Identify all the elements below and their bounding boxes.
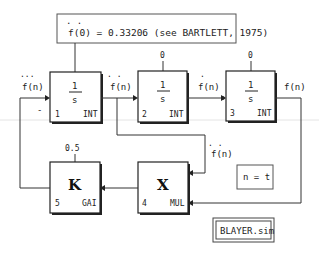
- block-3-integrator[interactable]: 1 s 3 INT: [226, 71, 277, 123]
- block3-type: INT: [257, 109, 272, 118]
- block5-number: 5: [55, 199, 60, 208]
- condition-text: n = t: [243, 172, 270, 182]
- block2-initial: 0: [160, 51, 165, 60]
- block3-number: 3: [230, 109, 235, 118]
- output2-dot: .: [200, 70, 205, 79]
- output2-label: f(n): [198, 82, 220, 92]
- output1-label: f(n): [110, 82, 132, 92]
- condition-note: n = t: [237, 165, 273, 189]
- block-2-integrator[interactable]: 1 s 2 INT: [138, 71, 189, 124]
- block2-denominator: s: [160, 94, 165, 104]
- filename-text: BLAYER.sim: [220, 226, 274, 236]
- block5-type: GAI: [82, 199, 97, 208]
- filename-box: BLAYER.sim: [213, 218, 274, 242]
- block1-denominator: s: [72, 95, 77, 105]
- block4-type: MUL: [170, 199, 185, 208]
- block-4-multiplier[interactable]: X 4 MUL: [138, 162, 190, 215]
- branch-dots: . .: [208, 139, 222, 148]
- block-diagram: . . f(0) = 0.33206 (see BARTLETT, 1975) …: [0, 0, 319, 259]
- note-dots: . .: [66, 16, 82, 26]
- output1-dots: . .: [107, 70, 121, 79]
- block3-denominator: s: [248, 94, 253, 104]
- block4-symbol: X: [157, 176, 169, 194]
- branch-label: f(n): [211, 149, 233, 159]
- block5-symbol: K: [68, 176, 82, 194]
- initial-condition-note: . . f(0) = 0.33206 (see BARTLETT, 1975): [57, 14, 268, 43]
- block2-type: INT: [169, 110, 184, 119]
- input1-dots: ...: [20, 70, 34, 79]
- block1-number: 1: [55, 110, 60, 119]
- block5-param: 0.5: [65, 144, 80, 153]
- block1-numerator: 1: [72, 81, 77, 91]
- block3-numerator: 1: [248, 80, 253, 90]
- block4-number: 4: [142, 199, 147, 208]
- note-text: f(0) = 0.33206 (see BARTLETT, 1975): [68, 27, 268, 38]
- block-5-gain[interactable]: K 5 GAI: [50, 162, 102, 215]
- block2-number: 2: [142, 110, 147, 119]
- block2-numerator: 1: [160, 80, 165, 90]
- input1-sign: -: [37, 105, 42, 115]
- block3-initial: 0: [248, 51, 253, 60]
- output3-label: f(n): [284, 82, 306, 92]
- block1-type: INT: [83, 110, 98, 119]
- input1-label: f(n): [22, 82, 44, 92]
- block-1-integrator[interactable]: 1 s 1 INT: [50, 72, 103, 124]
